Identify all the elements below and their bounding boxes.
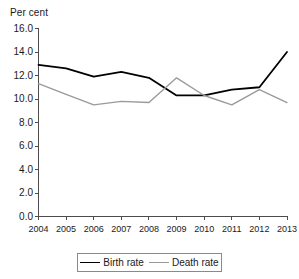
y-axis-tick-label: 0.0 [3, 212, 33, 222]
legend-item-death-rate: Death rate [149, 257, 219, 268]
series-line-birth-rate [39, 52, 288, 95]
legend-label-birth-rate: Birth rate [103, 257, 144, 268]
y-axis-tick-label: 10.0 [3, 94, 33, 104]
line-chart: Per cent 0.02.04.06.08.010.012.014.016.0… [0, 0, 299, 279]
y-axis-tick-label: 4.0 [3, 165, 33, 175]
legend-label-death-rate: Death rate [172, 257, 219, 268]
y-axis-tick-label: 6.0 [3, 141, 33, 151]
y-axis-tick-label: 14.0 [3, 47, 33, 57]
chart-legend: Birth rate Death rate [77, 253, 222, 272]
y-axis-tick-label: 2.0 [3, 188, 33, 198]
plot-area [0, 0, 299, 279]
x-axis-tick-label: 2013 [271, 224, 299, 234]
y-axis-tick-label: 16.0 [3, 24, 33, 34]
series-line-death-rate [39, 78, 288, 105]
y-axis-tick-label: 8.0 [3, 118, 33, 128]
y-axis-tick-label: 12.0 [3, 71, 33, 81]
legend-swatch-death-rate [149, 262, 169, 263]
legend-item-birth-rate: Birth rate [80, 257, 144, 268]
legend-swatch-birth-rate [80, 262, 100, 263]
